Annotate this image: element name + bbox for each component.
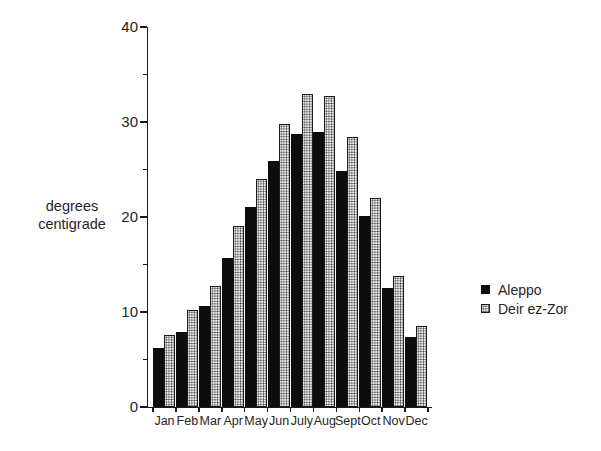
x-axis-tick-2 — [198, 407, 200, 412]
bar-aleppo-dec — [405, 337, 416, 407]
x-axis-tick-5 — [267, 407, 269, 412]
bar-aleppo-july — [291, 134, 302, 407]
bar-aleppo-apr — [222, 258, 233, 407]
x-axis-tick-10 — [381, 407, 383, 412]
bar-deir-ez-zor-oct — [370, 198, 381, 407]
bar-deir-ez-zor-feb — [187, 310, 198, 407]
x-axis-tick-3 — [221, 407, 223, 412]
x-axis-tick-1 — [175, 407, 177, 412]
bar-aleppo-mar — [199, 306, 210, 407]
x-axis-tick-0 — [152, 407, 154, 412]
x-axis-tick-11 — [404, 407, 406, 412]
x-axis-label-apr: Apr — [223, 414, 242, 430]
legend-label: Deir ez-Zor — [498, 301, 568, 317]
x-axis-tick-6 — [290, 407, 292, 412]
bar-aleppo-jan — [153, 348, 164, 407]
x-axis-label-dec: Dec — [405, 414, 427, 430]
x-axis-label-jan: Jan — [154, 414, 174, 430]
bar-deir-ez-zor-jun — [279, 124, 290, 407]
bar-aleppo-jun — [268, 161, 279, 407]
bar-deir-ez-zor-apr — [233, 226, 244, 407]
y-axis-minor-tick-25 — [143, 169, 147, 171]
legend-label: Aleppo — [498, 282, 542, 298]
x-axis-label-may: May — [244, 414, 268, 430]
bar-aleppo-nov — [382, 288, 393, 407]
bar-deir-ez-zor-nov — [393, 276, 404, 407]
y-axis-major-tick-0 — [140, 406, 147, 408]
y-axis-tick-label-40: 40 — [102, 18, 138, 35]
bar-deir-ez-zor-mar — [210, 286, 221, 407]
bar-deir-ez-zor-july — [302, 94, 313, 407]
bar-aleppo-aug — [313, 132, 324, 408]
x-axis-label-aug: Aug — [314, 414, 336, 430]
x-axis-label-mar: Mar — [200, 414, 222, 430]
legend-item-aleppo: Aleppo — [481, 280, 568, 299]
bar-deir-ez-zor-aug — [324, 96, 335, 407]
x-axis-tick-4 — [244, 407, 246, 412]
legend-swatch-icon — [481, 285, 490, 294]
bar-aleppo-feb — [176, 332, 187, 407]
y-axis-major-tick-10 — [140, 311, 147, 313]
temperature-bar-chart: degrees centigrade 010203040JanFebMarApr… — [0, 0, 601, 451]
y-axis-major-tick-30 — [140, 121, 147, 123]
bar-deir-ez-zor-jan — [164, 335, 175, 407]
x-axis-tick-7 — [313, 407, 315, 412]
y-axis-minor-tick-15 — [143, 264, 147, 266]
x-axis-tick-8 — [336, 407, 338, 412]
x-axis-label-feb: Feb — [177, 414, 199, 430]
y-axis-tick-label-0: 0 — [102, 398, 138, 415]
x-axis-tick-12 — [427, 407, 429, 412]
legend-item-deir-ez-zor: Deir ez-Zor — [481, 299, 568, 318]
bar-aleppo-sept — [336, 171, 347, 407]
x-axis-tick-9 — [359, 407, 361, 412]
y-axis-minor-tick-5 — [143, 359, 147, 361]
y-axis-minor-tick-35 — [143, 74, 147, 76]
y-axis-tick-label-30: 30 — [102, 113, 138, 130]
y-axis-title-line2: centigrade — [38, 216, 106, 232]
bar-aleppo-may — [245, 207, 256, 407]
x-axis-label-nov: Nov — [383, 414, 405, 430]
bar-aleppo-oct — [359, 216, 370, 407]
legend: AleppoDeir ez-Zor — [481, 280, 568, 318]
bar-deir-ez-zor-sept — [347, 137, 358, 407]
y-axis-tick-label-20: 20 — [102, 208, 138, 225]
y-axis-tick-label-10: 10 — [102, 303, 138, 320]
y-axis-title-line1: degrees — [46, 198, 98, 214]
plot-area: 010203040JanFebMarAprMayJunJulyAugSeptOc… — [147, 27, 432, 408]
bar-deir-ez-zor-may — [256, 179, 267, 407]
x-axis-label-jun: Jun — [269, 414, 289, 430]
x-axis-label-july: July — [291, 414, 313, 430]
x-axis-label-oct: Oct — [361, 414, 380, 430]
y-axis-major-tick-20 — [140, 216, 147, 218]
y-axis-major-tick-40 — [140, 26, 147, 28]
bar-deir-ez-zor-dec — [416, 326, 427, 407]
legend-swatch-icon — [481, 304, 490, 313]
x-axis-label-sept: Sept — [335, 414, 361, 430]
